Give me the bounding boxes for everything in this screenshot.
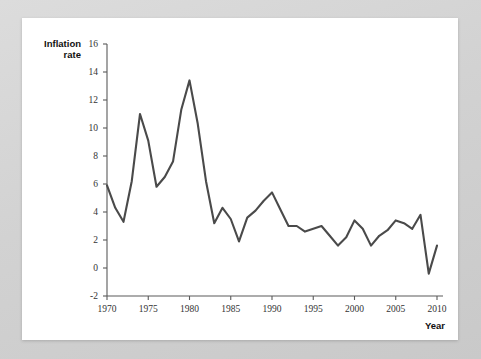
inflation-line-chart: -20246810121416 197019751980198519901995… [22,18,458,340]
y-tick-label: 8 [93,151,98,161]
y-tick-label: 6 [93,179,98,189]
x-axis-label: Year [425,320,445,331]
y-tick-label: 2 [93,235,98,245]
y-tick-label: 12 [89,95,99,105]
x-tick-label: 1990 [263,304,282,314]
inflation-rate-line [107,80,437,273]
y-tick-label: -2 [90,291,98,301]
x-tick-label: 1970 [98,304,117,314]
x-tick-label: 2000 [345,304,364,314]
y-axis-label-line2: rate [64,49,81,60]
x-tick-label: 1980 [180,304,199,314]
x-tick-label: 1985 [221,304,240,314]
x-tick-label: 1975 [139,304,158,314]
chart-card: -20246810121416 197019751980198519901995… [22,18,458,340]
y-tick-label: 4 [93,207,98,217]
x-axis: 197019751980198519901995200020052010 [98,296,447,314]
y-tick-label: 10 [89,123,99,133]
y-axis: -20246810121416 [89,39,108,301]
y-tick-label: 14 [89,67,99,77]
y-tick-label: 16 [89,39,99,49]
y-axis-label-line1: Inflation [44,38,81,49]
y-tick-label: 0 [93,263,98,273]
x-tick-label: 1995 [304,304,323,314]
x-tick-label: 2005 [386,304,405,314]
x-tick-label: 2010 [428,304,447,314]
